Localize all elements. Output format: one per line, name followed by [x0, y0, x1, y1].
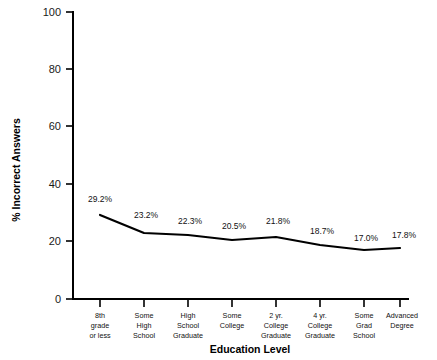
y-tick-label: 20: [49, 235, 61, 247]
data-point-label: 21.8%: [266, 216, 291, 226]
x-tick-label-group: High School Graduate: [173, 311, 203, 340]
x-tick-label-line: Some: [135, 311, 154, 320]
x-tick-label-line: Grad: [356, 321, 372, 330]
y-tick-label: 40: [49, 178, 61, 190]
x-tick-label-line: 4 yr.: [313, 311, 327, 320]
x-tick-label-line: 8th: [95, 311, 105, 320]
data-point-label: 22.3%: [178, 216, 203, 226]
x-tick-label-line: School: [353, 331, 375, 340]
y-axis-tick-labels: 100 80 60 40 20 0: [43, 6, 61, 305]
x-axis-title: Education Level: [210, 343, 291, 355]
data-point-labels: 29.2% 23.2% 22.3% 20.5% 21.8% 18.7% 17.0…: [88, 194, 417, 243]
x-tick-label-line: High: [137, 321, 152, 330]
data-point-label: 18.7%: [310, 226, 335, 236]
x-tick-label-group: Some College: [220, 311, 244, 330]
line-chart: 100 80 60 40 20 0 % Incorrect Answers 8t…: [0, 0, 437, 360]
data-point-label: 20.5%: [222, 221, 247, 231]
y-axis-title: % Incorrect Answers: [10, 118, 22, 222]
x-tick-label-line: Degree: [390, 321, 414, 330]
x-tick-label-line: School: [177, 321, 199, 330]
data-point-label: 17.8%: [392, 230, 417, 240]
x-tick-label-line: School: [133, 331, 155, 340]
x-tick-label-line: College: [308, 321, 332, 330]
x-tick-label-group: Some Grad School: [353, 311, 375, 340]
x-tick-label-line: Graduate: [261, 331, 291, 340]
x-axis-ticks: [100, 299, 400, 307]
data-point-label: 17.0%: [354, 233, 379, 243]
x-tick-label-line: College: [264, 321, 288, 330]
x-axis-tick-labels: 8th grade or less Some High School High …: [89, 311, 418, 340]
x-tick-label-line: or less: [89, 331, 111, 340]
data-point-label: 23.2%: [134, 210, 159, 220]
x-tick-label-line: High: [181, 311, 196, 320]
x-tick-label-group: Advanced Degree: [386, 311, 418, 330]
x-tick-label-group: Some High School: [133, 311, 155, 340]
y-tick-label: 80: [49, 63, 61, 75]
x-tick-label-line: Graduate: [305, 331, 335, 340]
x-tick-label-group: 2 yr. College Graduate: [261, 311, 291, 340]
x-tick-label-group: 8th grade or less: [89, 311, 111, 340]
x-tick-label-group: 4 yr. College Graduate: [305, 311, 335, 340]
x-tick-label-line: College: [220, 321, 244, 330]
x-tick-label-line: grade: [91, 321, 109, 330]
y-tick-label: 100: [43, 6, 61, 18]
chart-canvas: 100 80 60 40 20 0 % Incorrect Answers 8t…: [0, 0, 437, 360]
y-tick-label: 60: [49, 120, 61, 132]
x-tick-label-line: Advanced: [386, 311, 418, 320]
data-point-label: 29.2%: [88, 194, 113, 204]
y-axis-ticks: [66, 12, 73, 299]
x-tick-label-line: 2 yr.: [269, 311, 283, 320]
y-tick-label: 0: [55, 293, 61, 305]
x-tick-label-line: Graduate: [173, 331, 203, 340]
x-tick-label-line: Some: [355, 311, 374, 320]
x-tick-label-line: Some: [223, 311, 242, 320]
